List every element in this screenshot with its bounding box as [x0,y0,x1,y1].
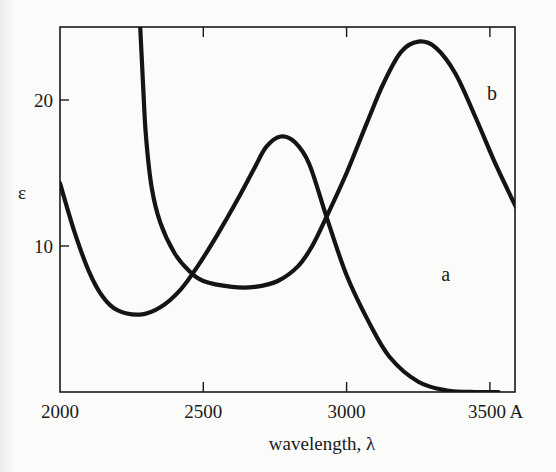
curve-b [140,27,518,288]
y-axis-label: ε [18,182,26,203]
plot-frame [60,27,515,392]
data-curves [60,27,519,392]
x-tick-label: 2500 [184,401,222,422]
x-tick-label: 3500 A [468,401,524,422]
y-tick-label: 10 [34,236,53,257]
x-tick-label: 3000 [328,401,366,422]
curve-a [60,136,499,392]
y-tick-label: 20 [34,90,53,111]
axis-tick-labels: 2000250030003500 A1020 [34,90,524,422]
curve-label-b: b [487,82,497,104]
x-tick-label: 2000 [41,401,79,422]
x-axis-label: wavelength, λ [269,433,376,454]
curve-label-a: a [441,263,450,285]
curve-labels: ab [441,82,497,285]
axis-ticks [60,27,490,392]
chart-canvas: 2000250030003500 A1020 ab ε wavelength, … [0,0,556,472]
